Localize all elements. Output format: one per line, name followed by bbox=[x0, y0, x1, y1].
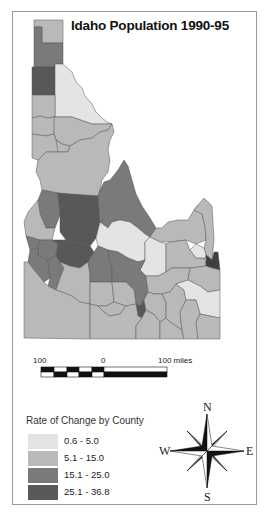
legend-swatch bbox=[28, 451, 58, 466]
compass-south-label: S bbox=[204, 490, 211, 505]
scale-bar bbox=[41, 367, 167, 377]
legend-item: 0.6 - 5.0 bbox=[28, 434, 148, 450]
county-shoshone bbox=[55, 64, 112, 124]
legend-label: 5.1 - 15.0 bbox=[64, 452, 104, 463]
map-title: Idaho Population 1990-95 bbox=[71, 18, 229, 33]
legend-swatch bbox=[28, 434, 58, 449]
scale-left-label: 100 bbox=[33, 356, 46, 365]
compass-north-label: N bbox=[203, 400, 212, 415]
legend-item: 15.1 - 25.0 bbox=[28, 468, 148, 484]
legend-title: Rate of Change by County bbox=[26, 415, 144, 426]
compass-east-label: E bbox=[246, 444, 253, 459]
legend-item: 25.1 - 36.8 bbox=[28, 485, 148, 501]
scale-center-label: 0 bbox=[101, 356, 105, 365]
county-benewah bbox=[32, 95, 55, 118]
scale-right-label: 100 miles bbox=[158, 356, 192, 365]
county-kootenai bbox=[32, 67, 55, 95]
compass-rose-icon bbox=[170, 414, 244, 488]
legend-item: 5.1 - 15.0 bbox=[28, 451, 148, 467]
legend-label: 25.1 - 36.8 bbox=[64, 486, 109, 497]
legend-label: 0.6 - 5.0 bbox=[64, 435, 99, 446]
county-latah bbox=[32, 116, 55, 136]
county-gooding bbox=[90, 282, 114, 306]
county-valley bbox=[58, 193, 100, 246]
legend-label: 15.1 - 25.0 bbox=[64, 469, 109, 480]
legend-swatch bbox=[28, 468, 58, 483]
legend-swatch bbox=[28, 485, 58, 500]
county-bear-lake bbox=[196, 314, 220, 339]
compass-west-label: W bbox=[159, 444, 170, 459]
